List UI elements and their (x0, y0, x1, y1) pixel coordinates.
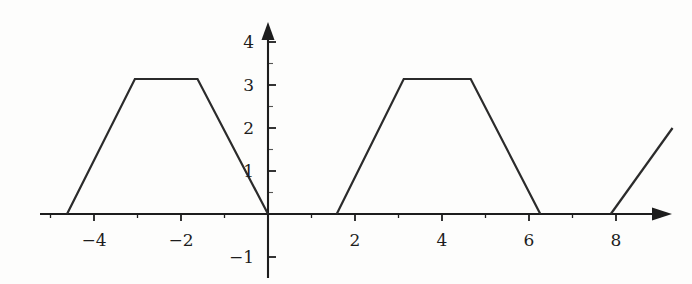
curve-group (67, 79, 673, 214)
y-tick-label: 3 (243, 77, 254, 94)
y-tick-label: −1 (229, 249, 254, 266)
tick-group (51, 42, 660, 257)
series-trapezoid-right (337, 79, 541, 214)
x-tick-label: 2 (350, 232, 361, 249)
y-tick-label: 1 (243, 163, 254, 180)
x-tick-label: 8 (611, 232, 622, 249)
y-axis-arrowhead (262, 22, 275, 40)
graph-figure: −4−22468 4321−1 (0, 0, 692, 284)
y-tick-label: 2 (243, 120, 254, 137)
x-axis-arrowhead (652, 208, 672, 221)
x-tick-label: 4 (437, 232, 448, 249)
x-tick-label: −4 (81, 232, 106, 249)
series-partial-rise (611, 128, 673, 214)
x-tick-label: −2 (168, 232, 193, 249)
series-trapezoid-left (67, 79, 268, 214)
y-tick-label: 4 (243, 34, 254, 51)
x-tick-label: 6 (524, 232, 535, 249)
